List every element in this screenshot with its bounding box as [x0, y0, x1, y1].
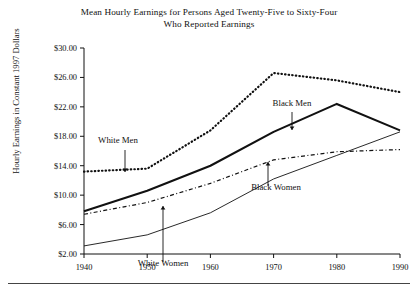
annotation-white-men: White Men [98, 135, 138, 145]
y-tick-label: $22.00 [54, 103, 77, 112]
series-line-black-men [84, 104, 400, 211]
plot-area: $2.00$6.00$10.00$14.00$18.00$22.00$26.00… [0, 0, 418, 296]
x-tick-label: 1940 [76, 263, 93, 272]
y-tick-label: $18.00 [54, 132, 77, 141]
x-tick-label: 1960 [202, 263, 219, 272]
series-line-white-women [84, 150, 400, 215]
bottom-rule [8, 283, 410, 284]
x-tick-label: 1970 [265, 263, 282, 272]
y-tick-label: $10.00 [54, 191, 77, 200]
annotation-black-women: Black Women [251, 182, 301, 192]
x-tick-label: 1990 [392, 263, 409, 272]
y-tick-label: $30.00 [54, 44, 77, 53]
y-tick-label: $26.00 [54, 73, 77, 82]
chart-figure: Mean Hourly Earnings for Persons Aged Tw… [0, 0, 418, 296]
y-tick-label: $6.00 [58, 221, 77, 230]
annotation-arrowhead-black-men [290, 127, 295, 130]
annotation-arrowhead-white-women [161, 206, 166, 209]
series-line-white-men [84, 73, 400, 172]
x-tick-label: 1980 [328, 263, 345, 272]
annotation-black-men: Black Men [273, 98, 312, 108]
y-tick-label: $2.00 [58, 250, 77, 259]
y-tick-label: $14.00 [54, 162, 77, 171]
